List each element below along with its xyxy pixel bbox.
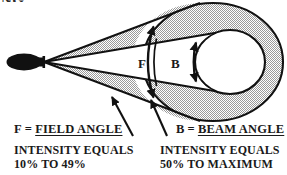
beam-desc-line-2: 50% TO MAXIMUM — [160, 158, 280, 172]
beam-equals-sign: = — [188, 122, 195, 137]
beam-intensity-description: INTENSITY EQUALS 50% TO MAXIMUM — [160, 144, 280, 171]
beam-angle-legend-heading: B = BEAM ANGLE — [176, 122, 284, 137]
clipped-title-fragment: NG — [1, 0, 25, 2]
beam-angle-letter: B — [171, 57, 180, 70]
beam-term: BEAM ANGLE — [198, 122, 284, 137]
beam-desc-line-1: INTENSITY EQUALS — [160, 144, 280, 158]
beam-symbol: B — [176, 122, 185, 137]
field-desc-line-1: INTENSITY EQUALS — [14, 144, 134, 158]
lamp-light-source — [7, 54, 46, 71]
field-angle-letter: F — [138, 57, 146, 70]
field-term: FIELD ANGLE — [35, 122, 122, 137]
field-symbol: F — [14, 122, 22, 137]
field-angle-legend-heading: F = FIELD ANGLE — [14, 122, 122, 137]
beam-field-angle-diagram: NG F B F = FIELD ANGLE INTENSITY EQUALS … — [0, 0, 287, 175]
beam-footprint-circle — [195, 30, 265, 94]
field-equals-sign: = — [25, 122, 32, 137]
field-intensity-description: INTENSITY EQUALS 10% TO 49% — [14, 144, 134, 171]
field-desc-line-2: 10% TO 49% — [14, 158, 134, 172]
